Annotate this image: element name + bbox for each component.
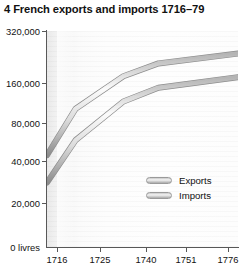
x-tick-label-1716: 1716 <box>37 254 77 265</box>
y-tick-label-320000: 320,000 <box>0 26 40 37</box>
y-tick-mark <box>42 161 47 162</box>
y-tick-mark <box>42 31 47 32</box>
x-tick-label-1740: 1740 <box>126 254 166 265</box>
chart-title: 4 French exports and imports 1716–79 <box>4 3 248 15</box>
x-tick-label-1776: 1776 <box>208 254 248 265</box>
y-tick-label-20000: 20,000 <box>0 198 40 209</box>
y-axis-origin-label: 0 livres <box>0 242 40 253</box>
x-tick-mark <box>57 247 58 252</box>
y-tick-mark <box>42 83 47 84</box>
legend-swatch-imports-icon <box>146 192 172 199</box>
x-tick-mark <box>228 247 229 252</box>
y-tick-mark <box>42 123 47 124</box>
y-tick-label-40000: 40,000 <box>0 156 40 167</box>
legend-label-imports: Imports <box>179 190 211 201</box>
series-line-imports <box>47 77 238 183</box>
y-axis-line <box>46 30 47 248</box>
plot-area <box>47 31 238 247</box>
chart-legend: Exports Imports <box>146 173 236 203</box>
x-tick-mark <box>146 247 147 252</box>
y-tick-label-80000: 80,000 <box>0 118 40 129</box>
legend-label-exports: Exports <box>179 175 212 186</box>
series-lines <box>47 31 238 247</box>
legend-swatch-exports-icon <box>146 177 172 184</box>
figure-chart: 4 French exports and imports 1716–79 <box>0 0 250 275</box>
x-tick-label-1725: 1725 <box>80 254 120 265</box>
x-tick-label-1751: 1751 <box>166 254 206 265</box>
y-tick-mark <box>42 203 47 204</box>
x-tick-mark <box>100 247 101 252</box>
x-axis-line <box>46 247 239 248</box>
legend-item-exports: Exports <box>146 173 236 188</box>
y-tick-label-160000: 160,000 <box>0 78 40 89</box>
x-tick-mark <box>186 247 187 252</box>
legend-item-imports: Imports <box>146 188 236 203</box>
